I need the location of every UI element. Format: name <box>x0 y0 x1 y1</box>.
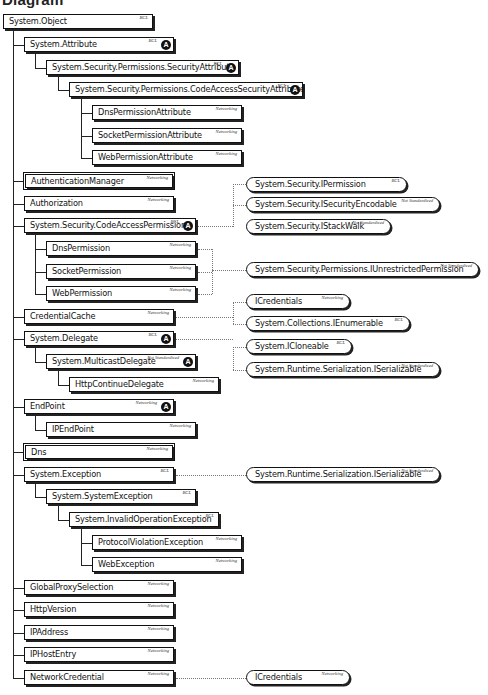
interface-iunrestricted-permission[interactable]: System.Security.Permissions.IUnrestricte… <box>246 262 479 277</box>
class-name: System.MulticastDelegate <box>52 356 156 366</box>
connector-object-children <box>13 31 14 678</box>
class-tag: BCL <box>149 38 157 43</box>
class-box-credential-cache[interactable]: CredentialCacheNetworking <box>24 309 174 324</box>
class-box-multicast-delegate[interactable]: System.MulticastDelegateNot Standardized… <box>46 354 196 369</box>
class-box-ip-endpoint[interactable]: IPEndPointNetworking <box>46 422 196 437</box>
class-tag: BCL <box>149 332 157 337</box>
h-connector <box>81 136 92 137</box>
class-box-web-permission[interactable]: WebPermissionNetworking <box>46 286 196 301</box>
class-name: AuthenticationManager <box>31 176 124 186</box>
connector-exception-children <box>35 483 36 497</box>
interface-connector <box>176 339 233 340</box>
class-tag: Networking <box>147 175 168 180</box>
class-tag: Networking <box>216 558 237 563</box>
interface-iserializable[interactable]: System.Runtime.Serialization.ISerializab… <box>246 362 440 377</box>
connector-systemexception-children <box>58 506 59 520</box>
interface-name: System.Security.IStackWalk <box>255 221 364 231</box>
interface-connector <box>176 678 246 679</box>
class-box-network-credential[interactable]: NetworkCredentialNetworking <box>24 670 174 685</box>
connector-attribute-children <box>35 53 36 68</box>
interface-connector <box>233 302 234 324</box>
class-name: WebException <box>98 559 154 569</box>
class-tag: Networking <box>193 378 214 383</box>
class-tag: Networking <box>216 106 237 111</box>
class-box-authorization[interactable]: AuthorizationNetworking <box>24 196 174 211</box>
class-box-system-exception-base[interactable]: System.SystemExceptionBCL <box>46 489 196 504</box>
interface-name: System.Runtime.Serialization.ISerializab… <box>255 469 421 479</box>
interface-iserializable-exception[interactable]: System.Runtime.Serialization.ISerializab… <box>246 467 440 482</box>
interface-connector <box>212 270 246 271</box>
class-name: HttpContinueDelegate <box>75 379 164 389</box>
class-box-web-exception[interactable]: WebExceptionNetworking <box>92 557 242 572</box>
class-name: DnsPermission <box>52 243 110 253</box>
interface-icloneable[interactable]: System.ICloneableBCL <box>246 339 352 354</box>
class-box-code-access-security-attribute[interactable]: System.Security.Permissions.CodeAccessSe… <box>69 82 303 97</box>
class-box-socket-permission[interactable]: SocketPermissionNetworking <box>46 264 196 279</box>
h-connector <box>58 520 69 521</box>
class-tag: BCL <box>206 513 214 518</box>
class-box-dns[interactable]: DnsNetworking <box>25 445 173 459</box>
class-name: HttpVersion <box>30 604 76 614</box>
h-connector <box>58 385 69 386</box>
class-box-ip-address[interactable]: IPAddressNetworking <box>24 625 174 640</box>
class-box-security-attribute[interactable]: System.Security.Permissions.SecurityAttr… <box>46 60 239 75</box>
interface-tag: Networking <box>322 295 343 300</box>
connector-endpoint-children <box>35 415 36 430</box>
class-box-system-attribute[interactable]: System.AttributeBCLA <box>24 37 174 52</box>
class-name: System.Delegate <box>30 333 98 343</box>
class-tag: Networking <box>148 603 169 608</box>
interface-name: System.Security.Permissions.IUnrestricte… <box>255 264 464 274</box>
abstract-icon: A <box>161 402 171 412</box>
h-connector <box>58 90 69 91</box>
h-connector <box>13 339 24 340</box>
h-connector <box>13 181 24 182</box>
class-tag: Networking <box>170 242 191 247</box>
class-name: System.Security.Permissions.SecurityAttr… <box>52 62 234 72</box>
h-connector <box>81 543 92 544</box>
class-box-authentication-manager[interactable]: AuthenticationManagerNetworking <box>25 174 173 188</box>
abstract-icon: A <box>226 63 236 73</box>
interface-isecurity-encodable[interactable]: System.Security.ISecurityEncodableNot St… <box>246 197 440 212</box>
interface-ipermission[interactable]: System.Security.IPermissionBCL <box>246 177 407 192</box>
class-box-dns-permission-attribute[interactable]: DnsPermissionAttributeNetworking <box>92 105 242 120</box>
class-box-protocol-violation-exception[interactable]: ProtocolViolationExceptionNetworking <box>92 535 242 550</box>
class-name: IPAddress <box>30 627 68 637</box>
class-tag: Networking <box>170 287 191 292</box>
class-box-web-permission-attribute[interactable]: WebPermissionAttributeNetworking <box>92 150 242 165</box>
interface-connector <box>233 205 246 206</box>
interface-connector <box>198 294 212 295</box>
h-connector <box>35 294 46 295</box>
interface-connector <box>198 249 212 250</box>
class-box-endpoint[interactable]: EndPointNetworkingA <box>24 399 174 414</box>
abstract-icon: A <box>161 40 171 50</box>
class-box-system-exception[interactable]: System.ExceptionBCL <box>24 467 174 482</box>
class-box-global-proxy-selection[interactable]: GlobalProxySelectionNetworking <box>24 580 174 595</box>
class-box-invalid-operation-exception[interactable]: System.InvalidOperationExceptionBCL <box>69 512 219 527</box>
interface-connector <box>198 272 212 273</box>
class-box-ip-host-entry[interactable]: IPHostEntryNetworking <box>24 647 174 662</box>
h-connector <box>81 565 92 566</box>
interface-icredentials-network[interactable]: ICredentialsNetworking <box>246 670 350 685</box>
h-connector <box>35 68 46 69</box>
h-connector <box>35 272 46 273</box>
class-name: ProtocolViolationException <box>98 537 203 547</box>
h-connector <box>35 362 46 363</box>
class-box-code-access-permission[interactable]: System.Security.CodeAccessPermissionBCLA <box>24 218 196 233</box>
class-name: IPEndPoint <box>52 424 94 434</box>
class-name: System.Exception <box>30 469 101 479</box>
class-box-http-version[interactable]: HttpVersionNetworking <box>24 602 174 617</box>
interface-connector <box>176 475 246 476</box>
class-box-socket-permission-attribute[interactable]: SocketPermissionAttributeNetworking <box>92 128 242 143</box>
class-box-system-object[interactable]: System.ObjectBCL <box>3 14 153 29</box>
connector-cap-children <box>35 235 36 294</box>
class-box-system-delegate[interactable]: System.DelegateBCLA <box>24 331 174 346</box>
interface-connector <box>233 347 246 348</box>
interface-connector <box>212 249 213 294</box>
class-box-dns-permission[interactable]: DnsPermissionNetworking <box>46 241 196 256</box>
interface-istack-walk[interactable]: System.Security.IStackWalkNot Standardiz… <box>246 219 391 234</box>
class-box-http-continue-delegate[interactable]: HttpContinueDelegateNetworking <box>69 377 219 392</box>
interface-ienumerable[interactable]: System.Collections.IEnumerableBCL <box>246 316 410 331</box>
interface-icredentials[interactable]: ICredentialsNetworking <box>246 294 350 309</box>
class-name: GlobalProxySelection <box>30 582 113 592</box>
h-connector <box>81 158 92 159</box>
